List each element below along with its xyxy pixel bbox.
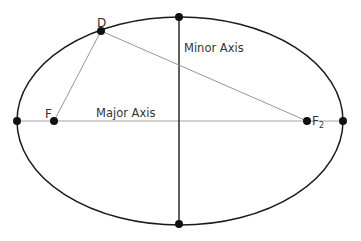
covertex-top-point: [175, 13, 183, 21]
label-f2: F2: [312, 114, 324, 130]
label-minor-axis: Minor Axis: [184, 41, 244, 55]
segment-d-f1: [54, 31, 101, 121]
vertex-left-point: [13, 117, 21, 125]
ellipse-diagram: D F F2 Major Axis Minor Axis: [0, 0, 361, 241]
vertex-right-point: [339, 117, 347, 125]
focus-2-point: [303, 117, 311, 125]
label-f2-subscript: 2: [319, 121, 324, 130]
label-d: D: [97, 16, 106, 30]
label-major-axis: Major Axis: [96, 106, 155, 120]
covertex-bottom-point: [175, 220, 183, 228]
label-f1: F: [45, 107, 52, 121]
